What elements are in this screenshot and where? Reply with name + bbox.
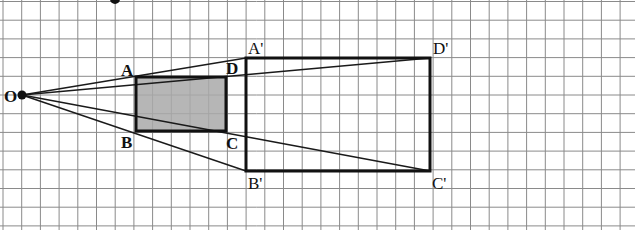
label-d-prime: D': [433, 39, 448, 58]
label-d: D: [226, 59, 238, 78]
label-b-prime: B': [248, 174, 262, 193]
label-b: B: [121, 133, 132, 152]
background: [0, 0, 635, 230]
label-c-prime: C': [432, 174, 446, 193]
small-rectangle-fill: [136, 77, 226, 131]
label-a: A: [121, 61, 134, 80]
label-a-prime: A': [248, 39, 263, 58]
enlargement-diagram: O A D B C A' D' B' C': [0, 0, 635, 230]
center-point-o: [18, 91, 27, 100]
label-o: O: [4, 87, 17, 106]
label-c: C: [226, 134, 238, 153]
